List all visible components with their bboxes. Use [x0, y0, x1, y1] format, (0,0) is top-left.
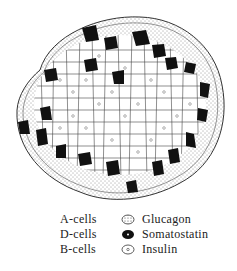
stippled-cell-icon — [118, 213, 138, 227]
legend-row-d-cells: D-cells Somatostatin — [60, 227, 237, 242]
legend-row-b-cells: B-cells Insulin — [60, 242, 237, 257]
black-cell-icon — [118, 228, 138, 242]
legend: A-cells Glucagon D-cells Somatostatin B-… — [60, 212, 237, 257]
legend-hormone-label: Somatostatin — [142, 227, 208, 242]
legend-hormone-label: Insulin — [142, 242, 177, 257]
legend-cell-label: A-cells — [60, 212, 118, 227]
islet-diagram — [0, 0, 237, 210]
legend-cell-label: B-cells — [60, 242, 118, 257]
legend-hormone-label: Glucagon — [142, 212, 191, 227]
clear-cell-icon — [118, 243, 138, 257]
legend-row-a-cells: A-cells Glucagon — [60, 212, 237, 227]
legend-cell-label: D-cells — [60, 227, 118, 242]
